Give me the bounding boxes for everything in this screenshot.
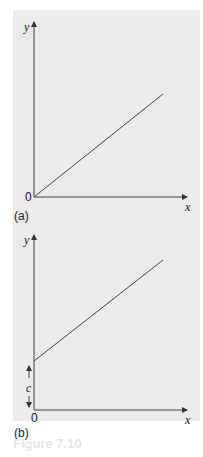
y-axis-label-b: y	[24, 233, 29, 248]
origin-label-a: 0	[25, 190, 32, 204]
origin-label-b: 0	[31, 411, 38, 425]
x-axis-label-b: x	[185, 413, 190, 428]
figure-caption: Figure 7.10	[13, 436, 82, 451]
intercept-label-c: c	[26, 381, 31, 396]
line-a	[34, 94, 163, 197]
panel-label-a: (a)	[14, 209, 29, 223]
line-b	[34, 260, 163, 361]
x-axis-label-a: x	[185, 200, 190, 215]
y-axis-label-a: y	[24, 20, 29, 35]
